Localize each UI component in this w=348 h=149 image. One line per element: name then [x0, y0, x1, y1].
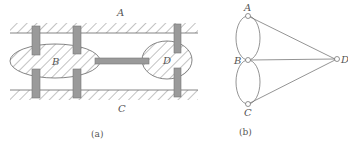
node-label-c: C: [244, 107, 252, 118]
panel-b: [236, 14, 340, 107]
node-b: [246, 58, 251, 63]
bridge-4: [73, 69, 81, 98]
node-label-b: B: [233, 55, 241, 66]
node-a: [246, 14, 251, 19]
bridge-6: [174, 24, 181, 53]
caption-b: (b): [239, 127, 252, 137]
node-label-d: D: [340, 54, 348, 65]
panel-a: A C B D (a): [10, 7, 198, 139]
bridge-1: [32, 26, 40, 55]
node-c: [246, 102, 251, 107]
edge-ad: [250, 17, 335, 59]
label-c: C: [118, 103, 126, 114]
edge-cd: [250, 60, 335, 103]
label-a: A: [116, 7, 124, 18]
bridge-5: [95, 58, 149, 64]
konigsberg-figure: A C B D (a) A B C D (b): [0, 0, 348, 149]
edge-bc-loop: [236, 60, 260, 104]
bridge-3: [32, 69, 40, 98]
node-label-a: A: [243, 2, 251, 13]
label-d: D: [162, 55, 171, 66]
node-d: [335, 57, 340, 62]
edge-ab-loop: [236, 16, 260, 60]
caption-a: (a): [91, 129, 103, 139]
label-b: B: [51, 56, 59, 67]
bridge-2: [73, 26, 81, 54]
edge-bd: [251, 59, 335, 60]
bridge-7: [174, 68, 181, 97]
